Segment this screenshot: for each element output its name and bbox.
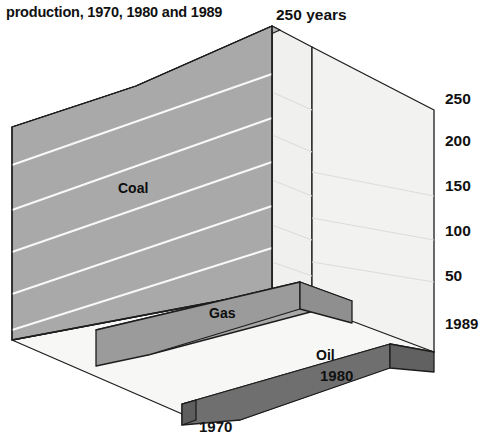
category-label-1989: 1989 <box>445 315 478 332</box>
y-axis-tick-200: 200 <box>445 132 471 149</box>
y-axis-tick-250: 250 <box>445 90 471 107</box>
bar-label-coal: Coal <box>118 180 148 196</box>
y-axis-tick-labels: 250 200 150 100 50 <box>445 90 471 284</box>
bar-label-oil: Oil <box>316 347 335 363</box>
y-axis-tick-50: 50 <box>445 267 462 284</box>
chart-canvas: Coal Gas Oil production, 1970, 1980 and … <box>0 0 486 437</box>
bar-oil-left-cap <box>182 400 196 425</box>
axis-cap-label: 250 years <box>276 6 347 23</box>
bar-label-gas: Gas <box>209 305 236 321</box>
three-d-energy-production-chart: Coal Gas Oil production, 1970, 1980 and … <box>0 0 486 437</box>
y-axis-tick-100: 100 <box>445 222 471 239</box>
chart-title: production, 1970, 1980 and 1989 <box>6 4 222 20</box>
bar-coal: Coal <box>12 26 280 340</box>
category-label-1980: 1980 <box>320 367 353 384</box>
category-label-1970: 1970 <box>199 418 232 435</box>
y-axis-tick-150: 150 <box>445 177 471 194</box>
